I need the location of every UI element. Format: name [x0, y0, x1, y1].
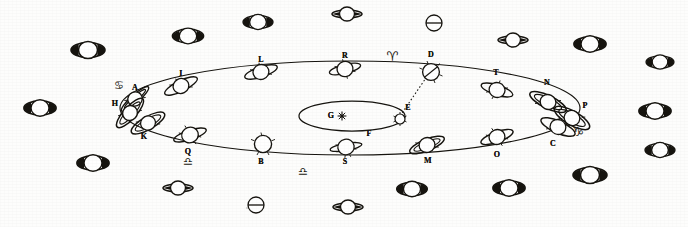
inner-ellipse-label-F: F: [366, 130, 371, 138]
station-planet-D: [420, 61, 443, 83]
station-planet-N: [527, 87, 569, 118]
station-label-D: D: [428, 51, 434, 59]
station-planet-O: [478, 122, 517, 152]
station-label-H: H: [112, 100, 118, 108]
saturn-orbit-figure: A I L R D T N P C O M S B Q K H G F E ♋ …: [0, 0, 688, 227]
station-label-B: B: [258, 158, 264, 166]
station-label-P: P: [582, 102, 587, 110]
sun-label-G: G: [328, 112, 334, 120]
libra-symbol: ♎: [183, 156, 193, 167]
cancer-symbol: ♋: [114, 80, 124, 91]
station-label-I: I: [179, 70, 182, 78]
libra-alt-symbol: ♎: [298, 166, 308, 177]
station-label-T: T: [493, 69, 499, 77]
earth-label-E: E: [405, 104, 411, 112]
station-label-R: R: [342, 52, 348, 60]
aries-symbol: ♈: [386, 50, 398, 63]
station-planet-T: [478, 75, 516, 104]
capricorn-symbol: ♑: [572, 125, 584, 138]
station-label-K: K: [141, 133, 147, 141]
station-label-S: S: [343, 158, 348, 166]
station-label-O: O: [494, 151, 500, 159]
station-planet-M: [407, 131, 447, 159]
station-label-C: C: [550, 140, 556, 148]
station-label-A: A: [132, 84, 138, 92]
station-label-M: M: [424, 157, 432, 165]
station-planet-Q: [171, 120, 210, 150]
sight-line-E-to-D: [398, 72, 430, 119]
engraving-canvas: [0, 0, 688, 227]
sun-glyph: [338, 112, 347, 121]
inner-earth-orbit-ellipse: [299, 101, 405, 131]
station-label-L: L: [258, 56, 264, 64]
station-planet-B: [251, 133, 275, 156]
station-label-N: N: [544, 79, 550, 87]
